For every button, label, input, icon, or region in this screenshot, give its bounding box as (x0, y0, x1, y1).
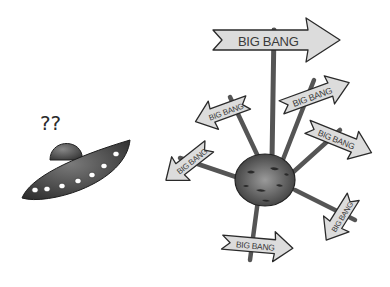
ufo: ?? (22, 111, 130, 200)
illustration: ?? (0, 0, 390, 287)
sign-lower-right: BIG BANG (314, 189, 366, 248)
ufo-dome-icon (50, 144, 82, 160)
sign-top: BIG BANG (213, 18, 340, 62)
sign-upper-right: BIG BANG (276, 69, 354, 122)
sign-left: BIG BANG (157, 135, 219, 193)
sign-bottom: BIG BANG (221, 227, 294, 263)
question-marks: ?? (40, 111, 61, 135)
sign-right: BIG BANG (302, 113, 377, 167)
planet (235, 154, 295, 206)
svg-text:BIG BANG: BIG BANG (238, 34, 299, 49)
